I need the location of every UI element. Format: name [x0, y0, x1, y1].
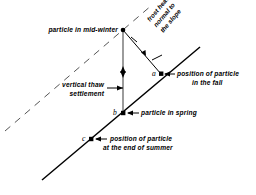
label-particle-in-spring: particle in spring	[140, 109, 197, 117]
particle-marker-b	[121, 111, 125, 115]
particle-marker-c	[89, 137, 93, 141]
label-position-in-the-fall-line1: position of particle	[176, 70, 239, 78]
point-label-a: a	[152, 69, 156, 78]
label-vertical-thaw-settlement-line2: settlement	[70, 90, 105, 97]
point-label-c: c	[82, 134, 86, 143]
label-b-leader-arrowhead	[127, 111, 133, 116]
frost-heave-arrowhead	[141, 50, 146, 56]
label-position-end-of-summer-line1: position of particle	[109, 135, 172, 143]
mid-winter-leader-line	[131, 37, 137, 42]
point-label-b: b	[113, 108, 117, 117]
thaw-settlement-leader-arrowhead	[117, 86, 123, 91]
label-frost-heave-normal-to-the-slope: frost heave normal to the slope	[145, 0, 187, 34]
label-vertical-thaw-settlement-line1: vertical thaw	[62, 81, 105, 88]
frost-heave-diagram: particle in mid-winter frost heave norma…	[0, 0, 256, 195]
label-position-in-the-fall-line2: in the fall	[192, 79, 223, 86]
particle-marker-a	[159, 72, 163, 76]
thaw-settlement-lower-arrowhead	[120, 66, 126, 73]
mid-winter-particle-marker	[121, 28, 126, 33]
label-c-leader-arrowhead	[95, 137, 101, 142]
frost-heave-leader-line	[152, 55, 162, 60]
label-position-end-of-summer-line2: at the end of summer	[103, 144, 173, 151]
label-particle-mid-winter: particle in mid-winter	[47, 26, 118, 34]
